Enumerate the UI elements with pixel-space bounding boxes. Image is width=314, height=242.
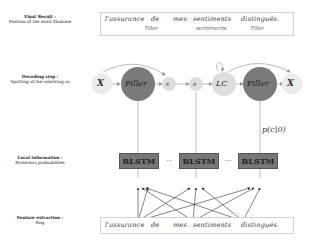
blstm-block-1: BLSTM	[119, 153, 159, 169]
diagram-canvas	[0, 0, 314, 242]
handwritten-word: de	[151, 221, 159, 229]
node-filler-2: Filler	[247, 79, 269, 88]
node-lc: LC	[216, 79, 227, 88]
blstm-block-3: BLSTM	[238, 153, 278, 169]
handwritten-word: sentiments	[193, 221, 231, 229]
feature-extraction-box: l'assurance de mes sentiments distingués…	[100, 217, 294, 234]
handwritten-word: l'assurance	[105, 221, 144, 229]
node-s: s	[166, 80, 169, 87]
node-filler-1: Filler	[125, 79, 147, 88]
handwritten-word: mes	[173, 221, 187, 229]
node-x-start: X	[97, 78, 104, 88]
probability-label: p(c|0)	[262, 125, 286, 134]
node-x-end: X	[287, 78, 294, 88]
ellipsis: ...	[166, 155, 173, 163]
ellipsis: ...	[225, 155, 232, 163]
decoding-nodes	[92, 67, 302, 101]
node-e: e	[193, 80, 197, 87]
blstm-block-2: BLSTM	[179, 153, 219, 169]
handwritten-word: distingués.	[241, 221, 279, 229]
